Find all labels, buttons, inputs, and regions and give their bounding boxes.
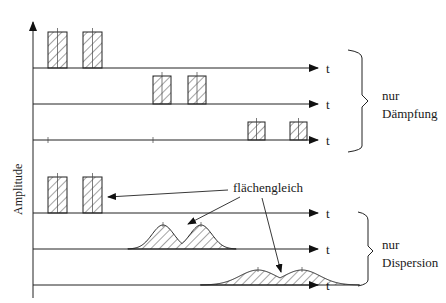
time-labels: tttttt bbox=[326, 61, 330, 293]
group-label-dispersion-line1: nur bbox=[382, 237, 400, 252]
time-axis-label: t bbox=[326, 133, 330, 148]
attenuation-dispersion-diagram: Amplitude tttttt nur Dämpfung nur Disper… bbox=[0, 0, 446, 303]
group-label-daempfung-line1: nur bbox=[382, 88, 400, 103]
time-axis-row bbox=[33, 222, 318, 249]
time-axis-row bbox=[33, 72, 318, 104]
time-axis-row bbox=[33, 267, 360, 285]
amplitude-axis-label: Amplitude bbox=[11, 164, 25, 215]
group-label-daempfung-line2: Dämpfung bbox=[382, 106, 438, 121]
brace-daempfung bbox=[348, 50, 368, 152]
gauss-pulse bbox=[200, 270, 359, 285]
time-axis-label: t bbox=[326, 206, 330, 221]
gauss-pulse bbox=[128, 225, 236, 249]
time-axes-rows bbox=[33, 28, 360, 285]
time-axis-label: t bbox=[326, 242, 330, 257]
time-axis-label: t bbox=[326, 278, 330, 293]
time-axis-row bbox=[33, 28, 318, 68]
time-axis-row bbox=[33, 118, 318, 140]
group-label-dispersion-line2: Dispersion bbox=[382, 255, 439, 270]
time-axis-label: t bbox=[326, 97, 330, 112]
time-axis-label: t bbox=[326, 61, 330, 76]
brace-dispersion bbox=[358, 212, 373, 286]
equal-area-annotation: flächengleich bbox=[233, 180, 304, 195]
